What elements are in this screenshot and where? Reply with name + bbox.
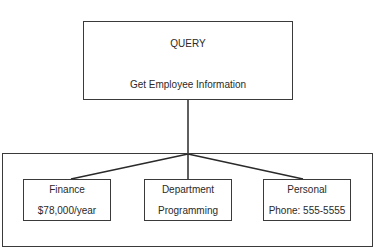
department-box: Department Programming bbox=[144, 179, 232, 221]
personal-title: Personal bbox=[264, 184, 350, 196]
query-box: QUERY Get Employee Information bbox=[83, 21, 293, 100]
finance-value: $78,000/year bbox=[24, 205, 110, 217]
personal-box: Personal Phone: 555-5555 bbox=[263, 179, 351, 221]
department-value: Programming bbox=[145, 205, 231, 217]
finance-box: Finance $78,000/year bbox=[23, 179, 111, 221]
query-title: QUERY bbox=[84, 38, 292, 50]
query-subtitle: Get Employee Information bbox=[84, 79, 292, 91]
department-title: Department bbox=[145, 184, 231, 196]
personal-value: Phone: 555-5555 bbox=[264, 205, 350, 217]
finance-title: Finance bbox=[24, 184, 110, 196]
